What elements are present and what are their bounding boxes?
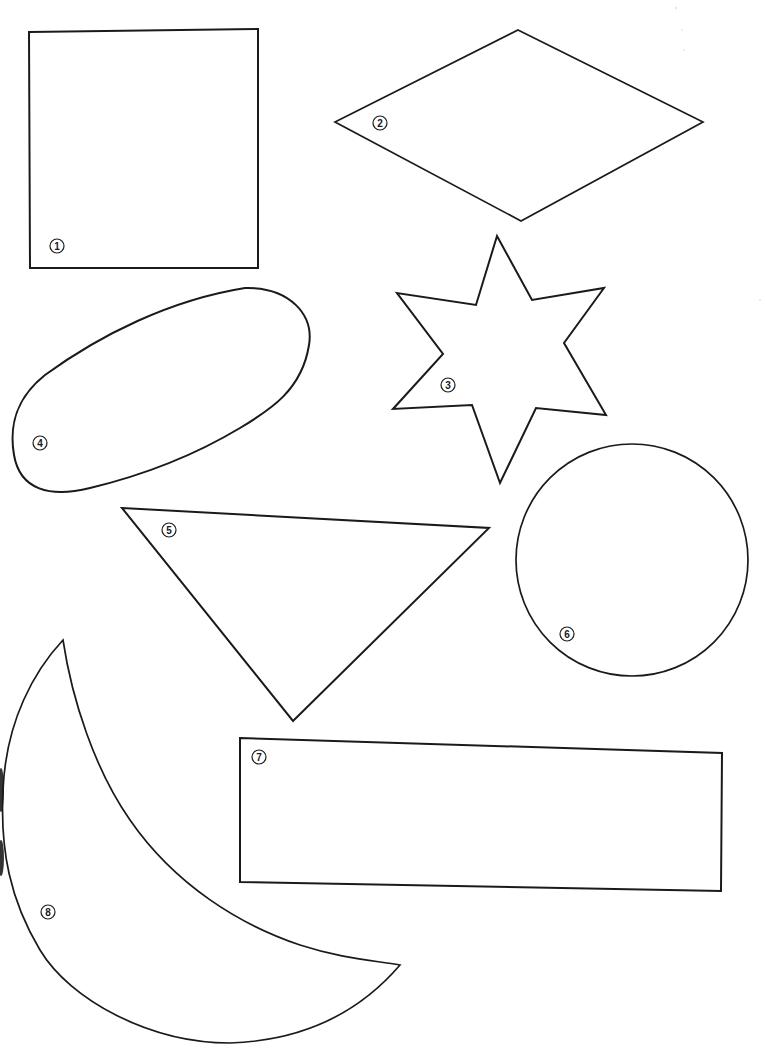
scan-smudge <box>0 840 4 876</box>
crescent-outline <box>2 640 400 1043</box>
label-number: 3 <box>445 380 451 391</box>
scan-noise <box>675 7 677 9</box>
shape-label-6: 6 <box>560 627 574 641</box>
star-outline <box>393 236 606 483</box>
shape-label-8: 8 <box>41 905 55 919</box>
shape-4-oval[interactable]: 4 <box>12 288 309 492</box>
label-number: 4 <box>37 438 43 449</box>
label-number: 1 <box>54 241 60 252</box>
scan-noise <box>683 49 685 51</box>
shape-label-2: 2 <box>373 116 387 130</box>
shape-2-rhombus[interactable]: 2 <box>335 30 703 221</box>
shape-7-rectangle[interactable]: 7 <box>240 738 722 891</box>
shape-label-5: 5 <box>162 523 176 537</box>
shape-label-4: 4 <box>33 436 47 450</box>
shape-6-circle[interactable]: 6 <box>516 444 748 676</box>
scan-noise <box>759 299 761 301</box>
square-outline <box>29 29 258 268</box>
scan-noise <box>681 29 683 31</box>
label-number: 2 <box>377 118 383 129</box>
shape-8-crescent[interactable]: 8 <box>2 640 400 1043</box>
scan-artifacts <box>0 7 761 876</box>
rhombus-outline <box>335 30 703 221</box>
shape-1-square[interactable]: 1 <box>29 29 258 268</box>
rectangle-outline <box>240 738 722 891</box>
shape-3-star[interactable]: 3 <box>393 236 606 483</box>
label-number: 7 <box>256 752 262 763</box>
triangle-outline <box>122 508 489 721</box>
shape-label-3: 3 <box>441 378 455 392</box>
circle-outline <box>516 444 748 676</box>
label-number: 5 <box>166 525 172 536</box>
label-number: 8 <box>45 907 51 918</box>
shape-label-1: 1 <box>50 239 64 253</box>
oval-outline <box>12 288 309 492</box>
label-number: 6 <box>564 629 570 640</box>
shape-label-7: 7 <box>252 750 266 764</box>
shape-5-triangle[interactable]: 5 <box>122 508 489 721</box>
shapes-worksheet: 1 2 3 4 5 <box>0 0 765 1053</box>
